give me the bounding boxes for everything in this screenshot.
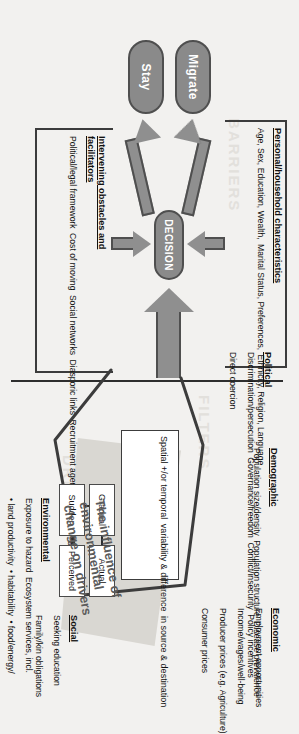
driver-political-item-4: Direct coercion — [228, 352, 238, 409]
variability-line-3: in source & destination — [159, 616, 169, 707]
driver-economic-item-1: Income/wages/well-being — [236, 608, 246, 705]
personal-household-title: Personal/household characteristics — [272, 128, 283, 465]
arrow-decision-to-stay — [131, 119, 169, 214]
variability-line-1: Spatial +/or temporal — [159, 436, 169, 519]
decision-node[interactable]: DECISION — [154, 210, 184, 280]
arrow-drivers-to-decision — [144, 288, 194, 380]
intervening-obstacles-item-2: Social networks — [68, 295, 78, 355]
outcome-stay-label: Stay — [139, 64, 153, 91]
variability-line-2: variability & difference — [159, 524, 169, 612]
variability-text: Spatial +/or temporal variability & diff… — [157, 436, 175, 707]
arrow-personal-to-decision — [185, 231, 225, 257]
arrow-decision-to-migrate — [168, 119, 206, 214]
driver-social-title: Social — [68, 615, 79, 713]
driver-environmental-item-4: • food/energy/ — [6, 620, 16, 673]
driver-political-item-0: Discrimination/persecution — [246, 352, 256, 453]
driver-demographic-item-1: Population structure — [252, 540, 262, 616]
personal-household-item-0: Age, Sex, Education, Wealth, — [256, 128, 266, 240]
driver-demographic-item-0: Population size/density — [252, 448, 262, 536]
outcome-stay[interactable]: Stay — [128, 40, 164, 114]
driver-environmental: Environmental Exposure to hazard Ecosyst… — [0, 498, 51, 713]
driver-environmental-item-0: Exposure to hazard — [24, 498, 34, 573]
outcome-migrate[interactable]: Migrate — [175, 40, 211, 114]
outcome-migrate-label: Migrate — [186, 54, 200, 99]
arrow-obstacles-to-decision — [111, 231, 153, 257]
driver-environmental-item-1: Ecosystem services, incl. — [24, 577, 34, 673]
intervening-obstacles-item-1: Cost of moving — [68, 233, 78, 290]
driver-economic-item-0: Employment opportunities — [254, 608, 264, 707]
driver-economic: Economic Employment opportunities Income… — [198, 608, 281, 734]
driver-environmental-title: Environmental — [40, 498, 51, 713]
decision-label: DECISION — [164, 219, 175, 271]
driver-economic-title: Economic — [270, 608, 281, 734]
intervening-obstacles-item-0: Political/legal framework — [68, 136, 78, 229]
driver-social-item-0: Seeking education — [52, 615, 62, 686]
driver-economic-item-2: Producer prices (e.g. Agriculture) — [218, 608, 228, 734]
driver-environmental-item-3: • habitability — [6, 570, 16, 616]
personal-household-item-1: Marital Status, Preferences, — [256, 244, 266, 350]
driver-environmental-item-2: • land productivity — [6, 498, 16, 566]
driver-economic-item-3: Consumer prices — [200, 608, 210, 673]
